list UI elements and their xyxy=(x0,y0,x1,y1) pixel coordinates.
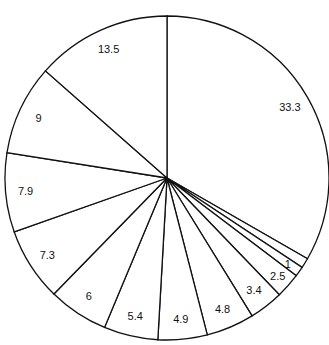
slice-label: 33.3 xyxy=(279,101,300,113)
pie-chart: 33.312.53.44.84.95.467.37.9913.5 xyxy=(0,0,329,345)
slice-label: 6 xyxy=(86,290,92,302)
pie-slices xyxy=(5,16,329,340)
slice-label: 5.4 xyxy=(128,310,143,322)
slice-label: 7.3 xyxy=(40,249,55,261)
slice-label: 3.4 xyxy=(246,284,261,296)
slice-label: 7.9 xyxy=(18,185,33,197)
slice-label: 4.8 xyxy=(215,303,230,315)
slice-label: 9 xyxy=(35,112,41,124)
slice-label: 2.5 xyxy=(270,270,285,282)
slice-label: 4.9 xyxy=(173,313,188,325)
slice-label: 1 xyxy=(285,258,291,270)
slice-label: 13.5 xyxy=(98,43,119,55)
